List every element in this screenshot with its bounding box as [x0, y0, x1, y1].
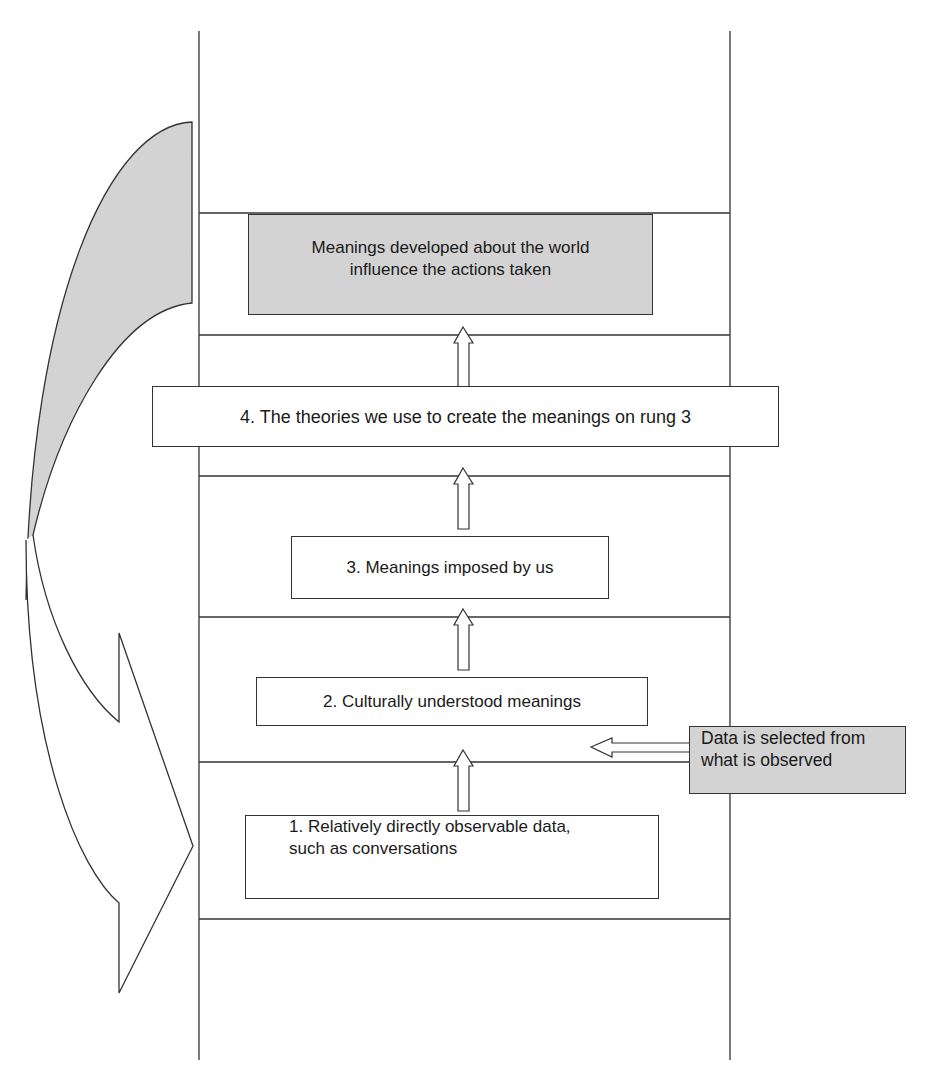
up-arrow-icon	[454, 750, 473, 811]
up-arrow-icon	[454, 468, 473, 529]
rung-4-box: 4. The theories we use to create the mea…	[152, 386, 779, 447]
feedback-arrow-lower	[26, 535, 193, 993]
rung-1-line2: such as conversations	[289, 838, 457, 860]
top-box-line2: influence the actions taken	[350, 259, 551, 281]
top-box-actions: Meanings developed about the world influ…	[248, 214, 653, 315]
feedback-arrow-shaded-band	[26, 122, 192, 600]
up-arrow-icon	[454, 327, 473, 387]
rung-1-box: 1. Relatively directly observable data, …	[245, 815, 659, 899]
side-box-line2: what is observed	[701, 749, 832, 771]
data-selection-box: Data is selected from what is observed	[689, 726, 906, 794]
top-box-line1: Meanings developed about the world	[312, 237, 590, 259]
rung-2-box: 2. Culturally understood meanings	[256, 677, 648, 726]
rung-3-box: 3. Meanings imposed by us	[291, 536, 609, 599]
left-arrow-icon	[591, 738, 690, 757]
rung-4-label: 4. The theories we use to create the mea…	[240, 406, 691, 428]
rung-1-line1: 1. Relatively directly observable data,	[289, 816, 571, 838]
rung-2-label: 2. Culturally understood meanings	[323, 691, 581, 713]
side-box-line1: Data is selected from	[701, 727, 865, 749]
up-arrow-icon	[454, 609, 473, 670]
rung-3-label: 3. Meanings imposed by us	[347, 557, 554, 579]
